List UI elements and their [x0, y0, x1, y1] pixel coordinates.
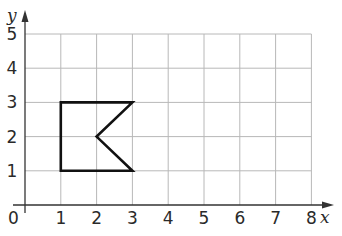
y-tick-labels: 12345 [7, 24, 18, 181]
x-tick-label: 4 [163, 208, 174, 228]
x-tick-label: 6 [234, 208, 245, 228]
y-tick-label: 2 [7, 127, 18, 147]
x-tick-label: 2 [91, 208, 102, 228]
x-tick-label: 0 [8, 208, 19, 228]
x-tick-label: 7 [270, 208, 281, 228]
x-tick-labels: 012345678 [8, 208, 317, 228]
x-tick-label: 8 [306, 208, 317, 228]
y-tick-label: 4 [7, 58, 18, 78]
coordinate-grid: x y 012345678 12345 [0, 0, 342, 236]
x-tick-label: 1 [55, 208, 66, 228]
y-axis-label: y [6, 5, 17, 25]
y-tick-label: 3 [7, 92, 18, 112]
x-tick-label: 3 [127, 208, 138, 228]
y-tick-label: 5 [7, 24, 18, 44]
y-axis-arrow-icon [22, 10, 29, 22]
y-tick-label: 1 [7, 161, 18, 181]
grid-lines [25, 34, 311, 205]
x-tick-label: 5 [199, 208, 210, 228]
x-axis-label: x [320, 207, 330, 227]
